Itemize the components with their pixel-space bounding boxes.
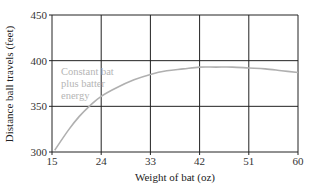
y-axis-label: Distance ball travels (feet) xyxy=(3,25,16,142)
x-tick-label: 51 xyxy=(243,155,254,167)
line-chart: Constant bat plus batter energy 30035040… xyxy=(0,0,319,185)
x-tick-label: 42 xyxy=(194,155,205,167)
x-tick-label: 60 xyxy=(293,155,305,167)
x-axis-label: Weight of bat (oz) xyxy=(135,171,215,184)
annotation-line-1: Constant bat xyxy=(61,66,114,77)
y-tick-label: 350 xyxy=(31,100,48,112)
x-tick-label: 24 xyxy=(96,155,108,167)
annotation-line-3: energy xyxy=(61,90,90,101)
plot-area: Constant bat plus batter energy xyxy=(49,15,298,155)
y-tick-label: 400 xyxy=(31,55,48,67)
y-axis-ticks: 300350400450 xyxy=(31,9,48,158)
annotation-line-2: plus batter xyxy=(61,78,106,89)
y-tick-label: 450 xyxy=(31,9,48,21)
x-tick-label: 15 xyxy=(47,155,59,167)
x-tick-label: 33 xyxy=(145,155,157,167)
y-tick-label: 300 xyxy=(31,146,48,158)
x-axis-ticks: 152433425160 xyxy=(47,155,305,167)
